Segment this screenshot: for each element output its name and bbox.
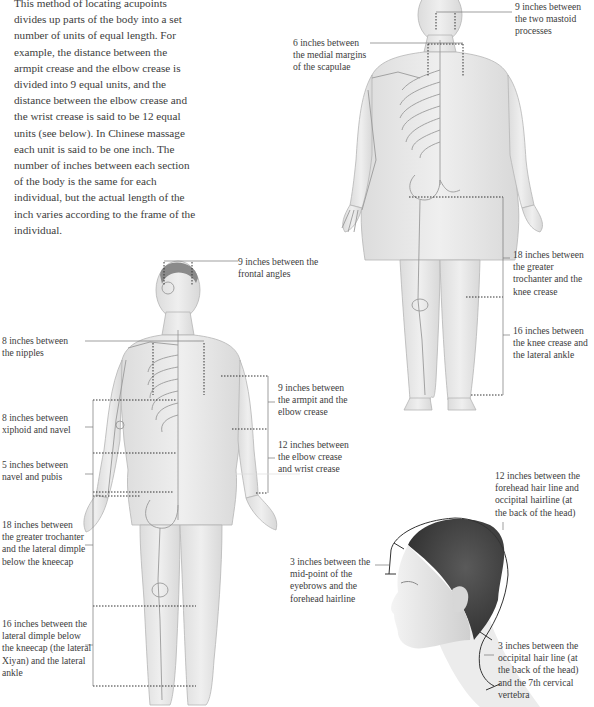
label-nipples: 8 inches between the nipples: [2, 335, 82, 359]
label-scapulae: 6 inches between the medial margins of t…: [293, 37, 373, 74]
label-xiphoid-navel: 8 inches between xiphoid and navel: [2, 412, 84, 436]
label-mastoid-processes: 9 inches between the two mastoid process…: [515, 1, 594, 38]
label-hairline-occipital: 12 inches between the forehead hair line…: [495, 470, 585, 519]
label-elbow-wrist: 12 inches between the elbow crease and w…: [278, 439, 356, 476]
label-trochanter-dimple: 18 inches between the greater trochanter…: [2, 519, 86, 568]
label-occipital-c7: 3 inches between the occipital hair line…: [498, 640, 590, 701]
label-armpit-elbow: 9 inches between the armpit and the elbo…: [278, 382, 356, 419]
label-frontal-angles: 9 inches between the frontal angles: [238, 256, 328, 280]
label-eyebrows-hairline: 3 inches between the mid-point of the ey…: [290, 556, 378, 605]
label-knee-ankle: 16 inches between the knee crease and th…: [513, 325, 591, 362]
label-trochanter-knee-crease: 18 inches between the greater trochanter…: [513, 249, 594, 298]
front-figure: [84, 261, 277, 705]
label-navel-pubis: 5 inches between navel and pubis: [2, 459, 84, 483]
label-dimple-ankle: 16 inches between the lateral dimple bel…: [2, 618, 92, 679]
